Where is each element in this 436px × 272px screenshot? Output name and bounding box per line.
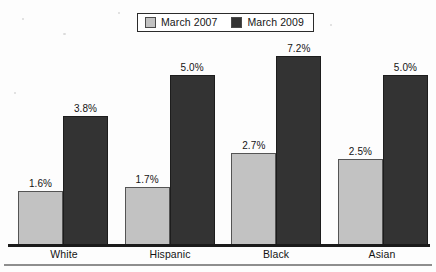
bar-value-asian-2007: 2.5%: [349, 146, 372, 157]
bar-black-2009[interactable]: [276, 56, 321, 245]
bar-value-white-2007: 1.6%: [29, 178, 52, 189]
bar-chart-figure: March 2007 March 2009 1.6% 3.8%: [0, 0, 436, 272]
bar-value-asian-2009: 5.0%: [394, 62, 417, 73]
bar-value-white-2009: 3.8%: [74, 103, 97, 114]
x-axis-label-black: Black: [230, 248, 322, 261]
bar-wrap-asian-2007: 2.5%: [338, 0, 383, 245]
footer-divider: [4, 264, 432, 266]
bar-group-asian: 2.5% 5.0%: [338, 0, 428, 245]
plot-area: 1.6% 3.8% 1.7% 5.0%: [0, 0, 436, 245]
bar-value-black-2007: 2.7%: [242, 140, 265, 151]
bar-asian-2007[interactable]: [338, 159, 383, 245]
x-axis-label-asian: Asian: [336, 248, 428, 261]
bar-white-2009[interactable]: [63, 116, 108, 245]
bar-wrap-asian-2009: 5.0%: [383, 0, 428, 245]
bar-black-2007[interactable]: [231, 153, 276, 245]
x-axis-label-hispanic: Hispanic: [124, 248, 216, 261]
bar-group-black: 2.7% 7.2%: [231, 0, 321, 245]
x-axis-baseline: [8, 244, 430, 247]
bar-wrap-white-2009: 3.8%: [63, 0, 108, 245]
bar-wrap-black-2009: 7.2%: [276, 0, 321, 245]
bar-asian-2009[interactable]: [383, 75, 428, 245]
bar-hispanic-2009[interactable]: [170, 75, 215, 245]
bar-value-hispanic-2009: 5.0%: [181, 62, 204, 73]
x-axis-label-white: White: [18, 248, 110, 261]
bar-white-2007[interactable]: [18, 191, 63, 245]
bar-wrap-white-2007: 1.6%: [18, 0, 63, 245]
bar-wrap-black-2007: 2.7%: [231, 0, 276, 245]
bar-value-black-2009: 7.2%: [287, 43, 310, 54]
figure-caption: [0, 267, 436, 272]
bar-wrap-hispanic-2009: 5.0%: [170, 0, 215, 245]
bar-group-white: 1.6% 3.8%: [18, 0, 108, 245]
bar-groups: 1.6% 3.8% 1.7% 5.0%: [18, 0, 428, 245]
bar-group-hispanic: 1.7% 5.0%: [125, 0, 215, 245]
x-axis-category-labels: White Hispanic Black Asian: [18, 248, 428, 261]
bar-hispanic-2007[interactable]: [125, 187, 170, 245]
bar-wrap-hispanic-2007: 1.7%: [125, 0, 170, 245]
bar-value-hispanic-2007: 1.7%: [136, 174, 159, 185]
